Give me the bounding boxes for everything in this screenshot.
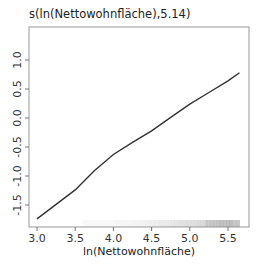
plot-title: s(ln(Nettowohnfläche),5.14) — [29, 7, 190, 21]
smooth-term-plot: s(ln(Nettowohnfläche),5.14) -1.5-1.0-0.5… — [0, 0, 264, 268]
x-tick-label: 4.0 — [105, 232, 123, 245]
x-tick-label: 3.5 — [66, 232, 84, 245]
x-axis-label: ln(Nettowohnfläche) — [83, 245, 195, 258]
x-tick-label: 5.5 — [219, 232, 237, 245]
x-tick-label: 5.0 — [181, 232, 199, 245]
y-axis: -1.5-1.0-0.50.00.51.0 — [11, 51, 29, 215]
y-tick-label: -1.5 — [11, 194, 24, 215]
plot-frame — [29, 27, 249, 227]
y-tick-label: 1.0 — [11, 51, 24, 69]
x-axis: 3.03.54.04.55.05.5 — [28, 227, 237, 245]
y-tick-label: -1.0 — [11, 165, 24, 186]
y-tick-label: 0.5 — [11, 80, 24, 98]
smooth-curve — [37, 73, 240, 219]
x-tick-label: 3.0 — [28, 232, 46, 245]
x-tick-label: 4.5 — [143, 232, 161, 245]
y-tick-label: 0.0 — [11, 109, 24, 127]
y-tick-label: -0.5 — [11, 136, 24, 157]
rug-plot — [83, 220, 240, 227]
